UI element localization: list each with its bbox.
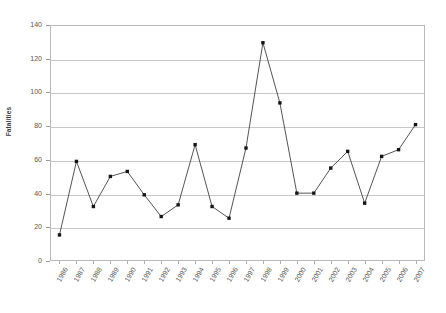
x-axis-tick-mark bbox=[280, 261, 281, 264]
y-axis-tick-label: 100 bbox=[0, 88, 42, 96]
series-line-fatalities bbox=[59, 43, 415, 235]
data-point-marker bbox=[261, 41, 264, 44]
x-axis-tick-mark bbox=[297, 261, 298, 264]
data-point-marker bbox=[363, 201, 366, 204]
data-point-marker bbox=[126, 170, 129, 173]
y-axis-tick-label: 140 bbox=[0, 21, 42, 29]
x-axis-tick-mark bbox=[195, 261, 196, 264]
x-axis-tick-mark bbox=[416, 261, 417, 264]
x-axis-tick-mark bbox=[331, 261, 332, 264]
x-axis-tick-mark bbox=[93, 261, 94, 264]
x-axis-tick-mark bbox=[314, 261, 315, 264]
fatalities-line-chart: Fatalities 020406080100120140 1986198719… bbox=[0, 0, 446, 313]
x-axis-tick-mark bbox=[59, 261, 60, 264]
data-point-marker bbox=[109, 175, 112, 178]
y-axis-tick-label: 80 bbox=[0, 122, 42, 130]
x-axis-tick-mark bbox=[127, 261, 128, 264]
data-point-marker bbox=[397, 148, 400, 151]
data-point-marker bbox=[312, 191, 315, 194]
y-axis-tick-label: 60 bbox=[0, 156, 42, 164]
x-axis-tick-mark bbox=[365, 261, 366, 264]
y-axis-tick-label: 20 bbox=[0, 223, 42, 231]
data-point-marker bbox=[75, 160, 78, 163]
data-point-marker bbox=[380, 155, 383, 158]
data-point-marker bbox=[244, 146, 247, 149]
data-point-marker bbox=[227, 217, 230, 220]
data-point-marker bbox=[143, 193, 146, 196]
y-axis-tick-label: 40 bbox=[0, 190, 42, 198]
x-axis-tick-mark bbox=[382, 261, 383, 264]
data-point-marker bbox=[278, 101, 281, 104]
x-axis-tick-mark bbox=[348, 261, 349, 264]
data-point-marker bbox=[176, 203, 179, 206]
x-axis-tick-mark bbox=[399, 261, 400, 264]
x-axis-tick-mark bbox=[144, 261, 145, 264]
data-point-marker bbox=[92, 205, 95, 208]
x-axis-tick-mark bbox=[178, 261, 179, 264]
series-fatalities bbox=[51, 26, 424, 260]
data-point-marker bbox=[58, 233, 61, 236]
data-point-marker bbox=[193, 143, 196, 146]
y-axis-tick-label: 0 bbox=[0, 257, 42, 265]
x-axis-tick-mark bbox=[76, 261, 77, 264]
y-axis-tick-label: 120 bbox=[0, 55, 42, 63]
y-axis-tick-mark bbox=[46, 261, 50, 262]
series-marker-group bbox=[58, 41, 417, 237]
data-point-marker bbox=[346, 150, 349, 153]
x-axis-tick-mark bbox=[161, 261, 162, 264]
data-point-marker bbox=[210, 205, 213, 208]
x-axis-tick-mark bbox=[110, 261, 111, 264]
x-axis-tick-mark bbox=[263, 261, 264, 264]
data-point-marker bbox=[295, 191, 298, 194]
plot-area bbox=[50, 25, 425, 261]
data-point-marker bbox=[414, 123, 417, 126]
x-axis-tick-mark bbox=[212, 261, 213, 264]
x-axis-tick-mark bbox=[229, 261, 230, 264]
data-point-marker bbox=[160, 215, 163, 218]
data-point-marker bbox=[329, 166, 332, 169]
x-axis-tick-mark bbox=[246, 261, 247, 264]
